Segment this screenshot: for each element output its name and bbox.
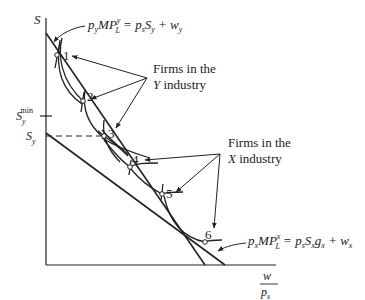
y-industry-equation: pyMPyL = psSy + wy bbox=[87, 16, 183, 35]
arrow-to-2 bbox=[91, 78, 147, 99]
point-1 bbox=[55, 53, 60, 58]
point-label-2: 2 bbox=[87, 89, 94, 104]
point-3 bbox=[102, 134, 107, 139]
svg-text:ps: ps bbox=[260, 285, 270, 300]
y-firms-label-line2: Y industry bbox=[153, 77, 207, 92]
y-firms-label-line1: Firms in the bbox=[153, 61, 216, 76]
point-2 bbox=[81, 99, 86, 104]
point-label-3: 3 bbox=[108, 126, 115, 141]
point-label-1: 1 bbox=[63, 48, 70, 63]
point-label-4: 4 bbox=[132, 152, 139, 167]
arrow-y-equation bbox=[54, 26, 85, 42]
arrow-to-1 bbox=[72, 56, 147, 78]
arrow-to-3 bbox=[116, 78, 147, 128]
arrow-x-equation bbox=[218, 243, 246, 251]
x-industry-equation: pxMPxL = psSxgx + wx bbox=[247, 232, 353, 251]
x-firms-label-line2: X industry bbox=[227, 151, 282, 166]
x-axis-label: w ps bbox=[260, 269, 278, 300]
arrow-to-5 bbox=[176, 154, 220, 192]
y-axis-label: S bbox=[34, 12, 41, 27]
arrow-to-6 bbox=[214, 154, 220, 228]
point-5 bbox=[160, 192, 165, 197]
diagram-canvas: S Symin Sy w ps bbox=[0, 0, 365, 300]
point-label-5: 5 bbox=[166, 186, 173, 201]
svg-text:w: w bbox=[263, 269, 271, 283]
arrow-to-4 bbox=[145, 154, 220, 160]
smin-label: Symin bbox=[16, 106, 33, 126]
x-firms-label-line1: Firms in the bbox=[228, 135, 291, 150]
point-label-6: 6 bbox=[205, 227, 212, 242]
sy-label: Sy bbox=[26, 129, 36, 146]
